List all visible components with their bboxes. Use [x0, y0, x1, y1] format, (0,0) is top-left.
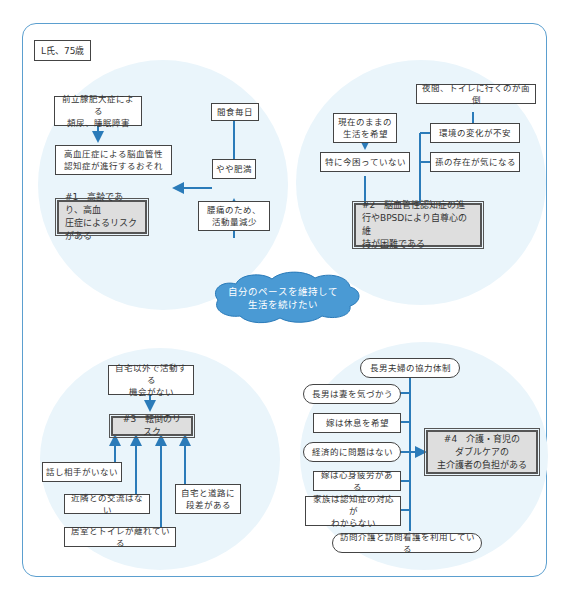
factor-no-outside-activity: 自宅以外で活動する 機会がない	[108, 365, 194, 395]
factor-overweight: やや肥満	[212, 159, 256, 179]
factor-no-neighbors: 近隣との交流はない	[64, 494, 150, 514]
factor-daughter-fatigue: 嫁は心身疲労がある	[313, 471, 401, 491]
factor-daughter-rest: 嫁は休息を希望	[313, 413, 401, 433]
factor-not-troubled: 特に今困っていない	[320, 152, 410, 172]
factor-night-toilet: 夜間、トイレに行くのが面倒	[416, 84, 536, 104]
factor-no-financial: 経済的に問題はない	[303, 442, 401, 462]
factor-prostate: 前立腺肥大症による 頻尿、睡眠障害	[54, 96, 142, 126]
factor-home-care: 訪問介護と訪問看護を利用している	[332, 533, 482, 553]
factor-grandchild: 孫の存在が気になる	[430, 152, 520, 172]
factor-current-life: 現在のままの 生活を希望	[333, 113, 397, 143]
factor-son-couple: 長男夫婦の協力体制	[360, 358, 460, 378]
factor-step-to-road: 自宅と道路に 段差がある	[175, 484, 241, 514]
problem-1: #1 高齢であり、高血 圧症によるリスクがある	[57, 200, 147, 234]
factor-env-change: 環境の変化が不安	[430, 123, 520, 143]
factor-toilet-far: 居室とトイレが離れている	[64, 527, 176, 547]
factor-no-talk-partner: 話し相手がいない	[42, 462, 122, 482]
center-goal: 自分のペースを維持して 生活を続けたい	[208, 285, 358, 311]
factor-family-unknown: 家族は認知症の対応が わからない	[305, 496, 401, 526]
factor-son-cares-wife: 長男は妻を気づかう	[303, 384, 401, 404]
factor-dementia-risk: 高血圧症による脳血管性 認知症が進行するおそれ	[55, 145, 172, 175]
factor-back-pain: 腰痛のため、 活動量減少	[198, 201, 270, 231]
problem-4: #4 介護・育児の ダブルケアの 主介護者の負担がある	[426, 430, 538, 474]
problem-3: #3 転倒のリスク	[111, 416, 193, 436]
factor-snacking: 間食毎日	[211, 103, 259, 121]
problem-2: #2 脳血管性認知症の進 行やBPSDにより自尊心の維 持が困難である	[354, 203, 482, 247]
patient-label: L氏、75歳	[34, 40, 91, 61]
